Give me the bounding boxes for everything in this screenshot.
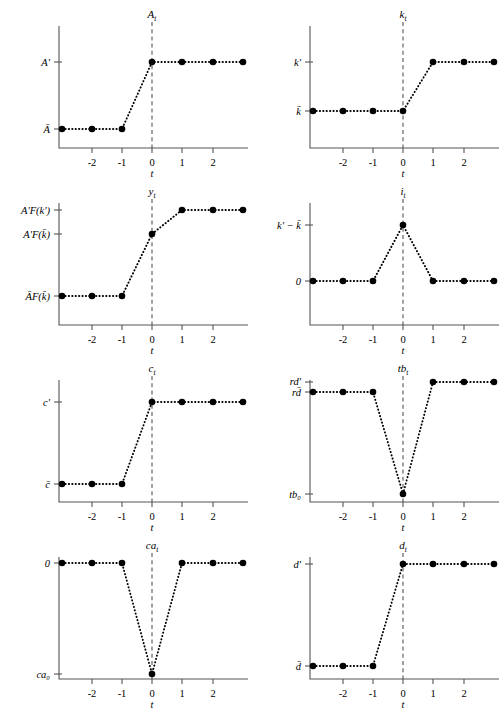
x-tick-label: 2 [461, 334, 466, 345]
panel-title: it [400, 185, 406, 200]
x-tick-label: 1 [430, 334, 435, 345]
x-axis-label: t [402, 699, 406, 708]
x-tick-label: 1 [179, 334, 184, 345]
y-tick-label-high: k' [294, 57, 302, 68]
x-tick-label: -2 [339, 334, 348, 345]
panel-title: tbt [398, 362, 410, 377]
panel-k-t: kt k' k̄ -2 -1 0 1 2 t [251, 0, 502, 177]
y-tick-label-high: k' − k̄ [277, 220, 301, 231]
series-line [313, 564, 494, 666]
x-tick-label: -1 [369, 334, 378, 345]
y-tick-label-low: 0 [296, 276, 302, 287]
x-tick-label: -1 [369, 157, 378, 168]
x-axis-label: t [151, 699, 155, 708]
x-tick-label: -1 [118, 688, 127, 699]
panel-title: kt [400, 8, 408, 23]
y-tick-label-low: d̄ [296, 661, 302, 672]
figure-grid: At A' Ā -2 -1 0 1 2 t [0, 0, 502, 708]
axes [305, 557, 499, 684]
x-tick-label: 0 [400, 334, 405, 345]
x-tick-label: -2 [339, 688, 348, 699]
y-tick-label-low: ĀF(k̄) [25, 291, 51, 303]
panel-c-t: ct c' c̄ -2 -1 0 1 2 t [0, 354, 251, 531]
x-tick-label: 2 [210, 157, 215, 168]
x-tick-label: 0 [149, 334, 154, 345]
panel-ca-t: cat 0 ca₀ -2 -1 0 1 2 t [0, 531, 251, 708]
x-tick-label: -2 [339, 157, 348, 168]
y-tick-label-high: rd' [290, 376, 302, 387]
axes [305, 26, 499, 153]
x-tick-label: -1 [118, 157, 127, 168]
x-tick-label: 2 [210, 511, 215, 522]
x-tick-label: -2 [88, 334, 97, 345]
axes [54, 203, 248, 330]
x-tick-label: -2 [339, 511, 348, 522]
x-tick-label: 2 [461, 688, 466, 699]
x-tick-label: 2 [461, 157, 466, 168]
panel-title: yt [148, 185, 157, 200]
axes [54, 557, 248, 684]
x-tick-label: 2 [461, 511, 466, 522]
x-tick-label: 1 [179, 688, 184, 699]
y-tick-label-low: k̄ [296, 106, 301, 117]
y-tick-label-low: c̄ [45, 479, 50, 490]
x-tick-label: 1 [430, 688, 435, 699]
x-tick-label: 1 [179, 157, 184, 168]
axes [54, 26, 248, 153]
x-tick-label: -1 [118, 334, 127, 345]
panel-d-t: dt d' d̄ -2 -1 0 1 2 t [251, 531, 502, 708]
panel-title: At [147, 8, 158, 23]
panel-title: dt [399, 539, 408, 554]
y-tick-label-high: A' [40, 57, 50, 68]
panel-title: cat [146, 539, 159, 554]
y-tick-label-low: tb₀ [289, 489, 301, 500]
x-tick-label: 0 [149, 511, 154, 522]
x-tick-label: -2 [88, 157, 97, 168]
x-tick-label: -1 [369, 511, 378, 522]
y-tick-label-low: ca₀ [36, 669, 50, 680]
x-tick-label: -2 [88, 511, 97, 522]
x-tick-label: 1 [430, 157, 435, 168]
x-tick-label: 0 [400, 511, 405, 522]
y-tick-label-high: A'F(k') [20, 205, 50, 217]
x-tick-label: 0 [400, 688, 405, 699]
x-tick-label: 1 [179, 511, 184, 522]
y-tick-label-high: d' [294, 559, 302, 570]
x-tick-label: 0 [149, 688, 154, 699]
x-tick-label: 0 [400, 157, 405, 168]
panel-title: ct [149, 362, 157, 377]
x-tick-label: -1 [369, 688, 378, 699]
y-tick-label-high: 0 [45, 558, 51, 569]
x-tick-label: 0 [149, 157, 154, 168]
panel-i-t: it k' − k̄ 0 -2 -1 0 1 2 t [251, 177, 502, 354]
panel-y-t: yt A'F(k') A'F(k̄) ĀF(k̄) -2 -1 0 1 2 t [0, 177, 251, 354]
panel-tb-t: tbt rd' rd̄ tb₀ -2 -1 0 1 2 t [251, 354, 502, 531]
x-tick-label: -2 [88, 688, 97, 699]
x-tick-label: 1 [430, 511, 435, 522]
x-tick-label: 2 [210, 688, 215, 699]
x-tick-label: 2 [210, 334, 215, 345]
y-tick-label-mid: rd̄ [292, 387, 302, 398]
x-tick-label: -1 [118, 511, 127, 522]
y-tick-label-mid: A'F(k̄) [22, 229, 50, 241]
y-tick-label-high: c' [43, 397, 51, 408]
y-tick-label-low: Ā [43, 124, 51, 135]
panel-a-t: At A' Ā -2 -1 0 1 2 t [0, 0, 251, 177]
